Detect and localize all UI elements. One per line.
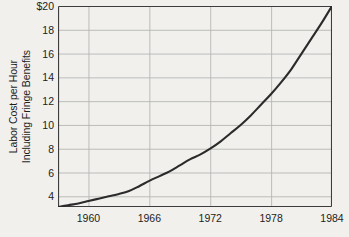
chart-figure: Labor Cost per Hour Including Fringe Ben… <box>0 0 349 237</box>
x-axis-tick-label: 1972 <box>199 213 222 224</box>
data-series-line <box>58 6 332 207</box>
plot-area <box>58 6 332 207</box>
x-axis-tick-label: 1978 <box>259 213 282 224</box>
x-axis-tick-label: 1984 <box>320 213 343 224</box>
grid-lines <box>58 6 332 207</box>
chart-plot-svg <box>58 6 332 207</box>
x-axis-tick-label: 1960 <box>77 213 100 224</box>
x-axis-tick-label: 1966 <box>138 213 161 224</box>
axis-lines <box>59 7 332 207</box>
